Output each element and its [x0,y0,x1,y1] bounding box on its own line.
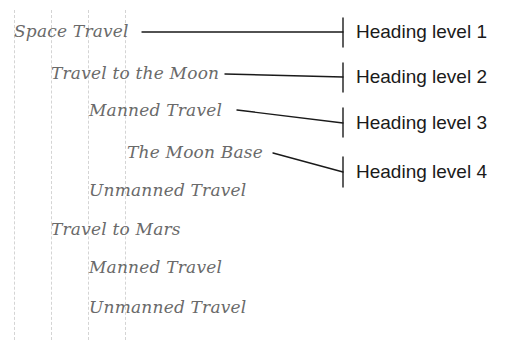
heading-levels-diagram: Space Travel Travel to the Moon Manned T… [0,0,513,345]
label-heading-level-1: Heading level 1 [356,21,487,43]
connector-level-4 [273,153,343,172]
label-heading-level-2: Heading level 2 [356,66,487,88]
label-heading-level-3: Heading level 3 [356,112,487,134]
connector-level-2 [225,74,343,77]
label-heading-level-4: Heading level 4 [356,161,487,183]
connector-level-3 [237,110,343,123]
